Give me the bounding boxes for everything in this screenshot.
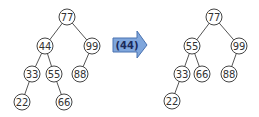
tree-node-after-77: 77 [206, 9, 222, 25]
node-value: 55 [186, 41, 199, 52]
node-value: 88 [223, 69, 236, 80]
node-value: 77 [208, 12, 221, 23]
tree-node-after-99: 99 [231, 38, 247, 54]
tree-edges [22, 17, 239, 102]
node-value: 66 [196, 69, 209, 80]
node-value: 99 [233, 41, 246, 52]
tree-node-before-44: 44 [37, 38, 53, 54]
bst-delete-diagram: 774499335588226677559933668822 (44) [0, 0, 259, 117]
node-value: 22 [166, 96, 179, 107]
node-value: 99 [86, 41, 99, 52]
node-value: 33 [26, 69, 39, 80]
node-value: 66 [58, 97, 71, 108]
tree-node-after-88: 88 [221, 66, 237, 82]
node-value: 33 [176, 69, 189, 80]
tree-node-before-22: 22 [14, 94, 30, 110]
operation-label: (44) [115, 40, 138, 51]
node-value: 55 [48, 69, 61, 80]
tree-node-after-55: 55 [184, 38, 200, 54]
tree-node-before-33: 33 [24, 66, 40, 82]
tree-node-before-66: 66 [56, 94, 72, 110]
tree-node-before-77: 77 [59, 9, 75, 25]
tree-node-after-33: 33 [174, 66, 190, 82]
node-value: 22 [16, 97, 29, 108]
node-value: 77 [61, 12, 74, 23]
tree-node-after-66: 66 [194, 66, 210, 82]
tree-node-after-22: 22 [164, 93, 180, 109]
tree-node-before-55: 55 [46, 66, 62, 82]
node-value: 44 [39, 41, 52, 52]
operation-arrow: (44) [113, 31, 147, 58]
tree-node-before-99: 99 [84, 38, 100, 54]
node-value: 88 [74, 69, 87, 80]
tree-node-before-88: 88 [72, 66, 88, 82]
